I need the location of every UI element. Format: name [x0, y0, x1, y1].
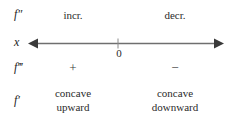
cell-f-second-left: incr. [38, 9, 108, 21]
row-label-f-third-derivative: f‴ [14, 61, 38, 74]
zero-axis-label: 0 [108, 47, 130, 59]
row-label-f-first-derivative: f′ [14, 94, 38, 107]
cell-sign-right-minus: − [132, 61, 218, 74]
left-arrowhead-icon [28, 39, 38, 49]
sign-chart-diagram: f″ incr. decr. x 0 f‴ + − f′ concave upw… [0, 0, 232, 117]
right-arrowhead-icon [214, 39, 224, 49]
cell-concavity-left-line2: upward [38, 101, 108, 113]
cell-concavity-left: concave upward [38, 87, 108, 113]
cell-sign-left-plus: + [38, 61, 108, 74]
row-label-f-second-derivative: f″ [14, 8, 38, 21]
cell-concavity-right-line2: downward [132, 101, 218, 113]
cell-concavity-right: concave downward [132, 87, 218, 113]
cell-concavity-left-line1: concave [38, 87, 108, 99]
cell-f-second-right: decr. [132, 9, 218, 21]
cell-concavity-right-line1: concave [132, 87, 218, 99]
